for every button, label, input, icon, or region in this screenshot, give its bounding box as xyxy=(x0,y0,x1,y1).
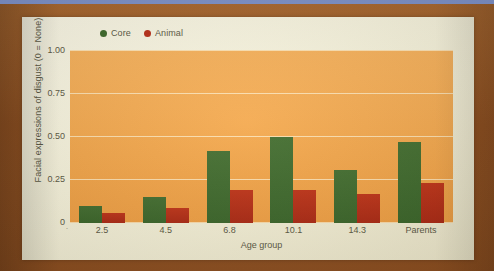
y-tick-label-0: 0 xyxy=(60,217,65,227)
bar-core-6.8 xyxy=(207,151,230,223)
legend-label-animal: Animal xyxy=(155,28,183,38)
chart-page: Core Animal Facial expressions of disgus… xyxy=(22,17,474,260)
bar-core-14.3 xyxy=(334,170,357,223)
bar-core-4.5 xyxy=(143,197,166,223)
x-axis-tick-labels: 2.54.56.810.114.3Parents xyxy=(70,225,453,235)
bar-animal-parents xyxy=(421,183,444,223)
legend-swatch-core-icon xyxy=(100,30,107,37)
legend-label-core: Core xyxy=(111,28,131,38)
bar-animal-14.3 xyxy=(357,194,380,223)
bar-core-2.5 xyxy=(79,206,102,223)
legend-entry-animal: Animal xyxy=(144,28,183,38)
bar-animal-2.5 xyxy=(102,213,125,223)
bar-animal-4.5 xyxy=(166,208,189,223)
bar-group xyxy=(198,50,262,223)
x-tick-label: 14.3 xyxy=(325,225,389,235)
plot-area: 1.00 0.75 0.50 0.25 0 xyxy=(70,50,453,223)
x-tick-label: Parents xyxy=(389,225,453,235)
bar-group xyxy=(389,50,453,223)
x-tick-label: 2.5 xyxy=(70,225,134,235)
photo-of-printed-chart: Core Animal Facial expressions of disgus… xyxy=(0,0,494,271)
bar-chart-figure: Core Animal Facial expressions of disgus… xyxy=(22,17,474,260)
x-tick-label: 6.8 xyxy=(198,225,262,235)
chart-legend: Core Animal xyxy=(100,26,183,40)
bar-group xyxy=(325,50,389,223)
bar-animal-6.8 xyxy=(230,190,253,223)
legend-swatch-animal-icon xyxy=(144,30,151,37)
bar-group xyxy=(261,50,325,223)
x-tick-label: 4.5 xyxy=(134,225,198,235)
y-tick-label-4: 1.00 xyxy=(47,45,65,55)
bar-groups xyxy=(70,50,453,223)
brown-border-frame: Core Animal Facial expressions of disgus… xyxy=(0,4,494,271)
bar-core-parents xyxy=(398,142,421,223)
bar-group xyxy=(70,50,134,223)
x-tick-label: 10.1 xyxy=(261,225,325,235)
bar-core-10.1 xyxy=(270,137,293,223)
bar-animal-10.1 xyxy=(293,190,316,223)
y-tick-label-2: 0.50 xyxy=(47,131,65,141)
bar-group xyxy=(134,50,198,223)
y-tick-label-3: 0.75 xyxy=(47,88,65,98)
x-axis-title: Age group xyxy=(70,240,453,250)
axis-origin-mark: . xyxy=(66,223,68,230)
y-axis-title: Facial expressions of disgust (0 = None) xyxy=(33,0,43,200)
y-tick-label-1: 0.25 xyxy=(47,174,65,184)
legend-entry-core: Core xyxy=(100,28,131,38)
